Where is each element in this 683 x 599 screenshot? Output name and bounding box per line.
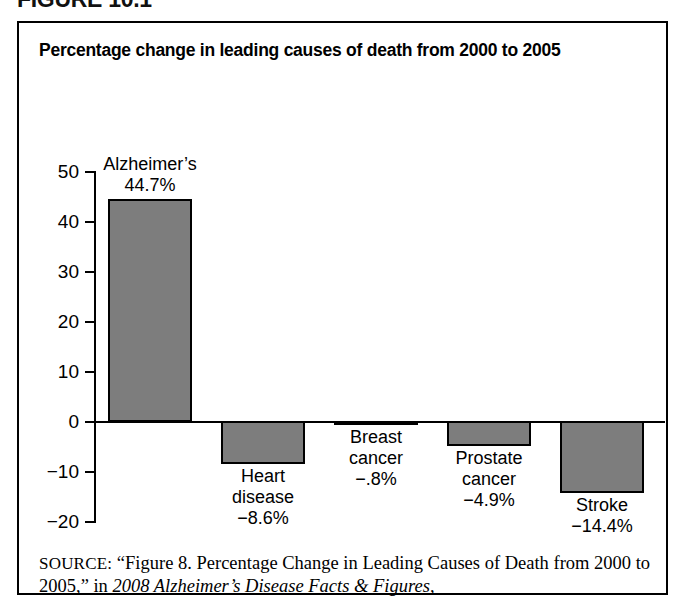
y-axis-tick [85, 521, 96, 523]
y-axis-tick-label: −10 [31, 462, 79, 481]
bar-label-stroke: Stroke−14.4% [528, 495, 676, 537]
bar-chart-plot: 50403020100−10−20Alzheimer’s44.7%Heartdi… [19, 23, 670, 543]
source-label: SOURCE: [39, 554, 112, 573]
y-axis-tick-label: 40 [31, 212, 79, 231]
figure-number-heading: FIGURE 10.1 [17, 0, 152, 14]
y-axis-tick-label: 0 [31, 412, 79, 431]
bar-stroke [560, 421, 644, 493]
y-axis-tick-label: 20 [31, 312, 79, 331]
bar-category-line: Breast [302, 427, 450, 448]
bar-breast-cancer [334, 421, 418, 425]
bar-heart-disease [221, 421, 305, 464]
bar-category-line: Prostate [415, 448, 563, 469]
y-axis-tick [85, 271, 96, 273]
y-axis-tick [85, 471, 96, 473]
y-axis-tick [85, 371, 96, 373]
bar-value-label: 44.7% [76, 175, 224, 196]
bar-category-line: Stroke [528, 495, 676, 516]
y-axis-tick-label: 10 [31, 362, 79, 381]
bar-value-label: −8.6% [189, 508, 337, 529]
figure-panel: Percentage change in leading causes of d… [17, 21, 668, 595]
source-italic-title: 2008 Alzheimer’s Disease Facts & Figures… [112, 576, 434, 596]
bar-prostate-cancer [447, 421, 531, 446]
source-note: SOURCE: “Figure 8. Percentage Change in … [39, 552, 655, 598]
bar-category-line: Alzheimer’s [76, 154, 224, 175]
y-axis-line [94, 172, 96, 522]
bar-value-label: −14.4% [528, 516, 676, 537]
bar-label-alzheimer-s: Alzheimer’s44.7% [76, 154, 224, 196]
bar-category-line: disease [189, 487, 337, 508]
y-axis-tick-label: −20 [31, 512, 79, 531]
y-axis-tick-label: 50 [31, 162, 79, 181]
y-axis-tick [85, 321, 96, 323]
y-axis-tick [85, 221, 96, 223]
bar-category-line: cancer [415, 469, 563, 490]
y-axis-tick-label: 30 [31, 262, 79, 281]
bar-alzheimer-s [108, 199, 192, 423]
